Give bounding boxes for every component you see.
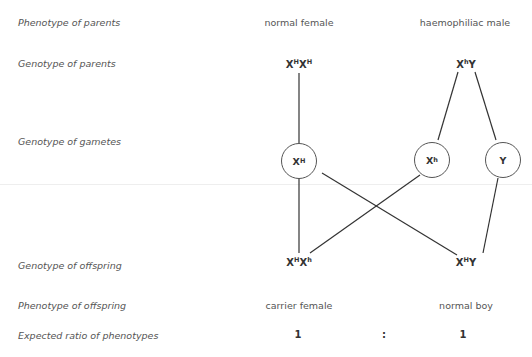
ratio-carrier-female: 1 xyxy=(295,329,302,340)
offspring-phenotype-carrier-female: carrier female xyxy=(266,300,333,311)
label-phenotype-of-parents: Phenotype of parents xyxy=(18,17,120,28)
mother-genotype: XHXH xyxy=(286,58,312,70)
mother-phenotype: normal female xyxy=(264,17,333,28)
offspring-phenotype-normal-boy: normal boy xyxy=(439,300,493,311)
offspring-genotype-normal-boy: XHY xyxy=(456,256,476,268)
gamete-Xh: Xh xyxy=(414,142,450,178)
label-phenotype-of-offspring: Phenotype of offspring xyxy=(18,300,126,311)
father-phenotype: haemophiliac male xyxy=(420,17,510,28)
line-Y-to-normalboy xyxy=(483,178,498,253)
line-Xh-to-carrier xyxy=(310,175,420,253)
ratio-normal-boy: 1 xyxy=(460,329,467,340)
gamete-XH: XH xyxy=(281,143,317,179)
label-expected-ratio: Expected ratio of phenotypes xyxy=(18,330,158,341)
line-father-to-Xh xyxy=(438,72,458,140)
label-genotype-of-offspring: Genotype of offspring xyxy=(18,260,122,271)
label-genotype-of-gametes: Genotype of gametes xyxy=(18,136,121,147)
line-father-to-Y xyxy=(475,72,496,140)
line-XH-to-normalboy xyxy=(322,173,457,255)
ratio-separator: : xyxy=(382,329,386,340)
label-genotype-of-parents: Genotype of parents xyxy=(18,58,116,69)
gamete-Y: Y xyxy=(485,142,521,178)
father-genotype: XhY xyxy=(456,58,476,70)
offspring-genotype-carrier-female: XHXh xyxy=(286,256,312,268)
